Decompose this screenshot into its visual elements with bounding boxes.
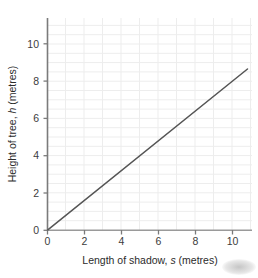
y-tick-label: 2 bbox=[33, 187, 39, 199]
y-axis-title-pre: Height of tree, bbox=[6, 113, 18, 182]
y-tick-labels: 0 2 4 6 8 10 bbox=[27, 38, 39, 237]
x-tick-label: 6 bbox=[156, 235, 162, 247]
plot-area-background bbox=[47, 18, 252, 230]
y-tick-label: 8 bbox=[33, 75, 39, 87]
x-tick-labels: 0 2 4 6 8 10 bbox=[45, 235, 239, 247]
y-tick-label: 10 bbox=[27, 38, 39, 50]
x-axis-title: Length of shadow, s (metres) bbox=[82, 254, 217, 266]
y-axis-title: Height of tree, h (metres) bbox=[6, 66, 18, 183]
line-chart: 0 2 4 6 8 10 0 2 4 6 8 10 Length of shad… bbox=[0, 0, 258, 278]
chart-container: 0 2 4 6 8 10 0 2 4 6 8 10 Length of shad… bbox=[0, 0, 258, 278]
x-tick-label: 0 bbox=[45, 235, 51, 247]
y-tick-label: 4 bbox=[33, 149, 39, 161]
x-tick-label: 4 bbox=[119, 235, 125, 247]
y-tick-label: 0 bbox=[33, 224, 39, 236]
x-axis-title-pre: Length of shadow, bbox=[82, 254, 170, 266]
x-tick-label: 2 bbox=[82, 235, 88, 247]
x-tick-label: 8 bbox=[193, 235, 199, 247]
y-axis-title-post: (metres) bbox=[6, 66, 18, 108]
x-tick-label: 10 bbox=[227, 235, 239, 247]
x-axis-title-post: (metres) bbox=[176, 254, 218, 266]
y-tick-label: 6 bbox=[33, 112, 39, 124]
